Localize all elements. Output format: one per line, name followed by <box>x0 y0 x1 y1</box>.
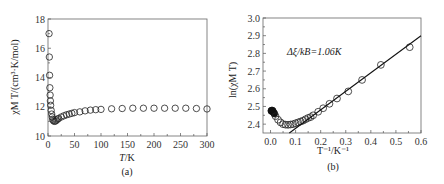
y-tick-label: 2.9 <box>248 30 261 41</box>
x-tick-label: 0.4 <box>365 136 378 147</box>
x-tick-label: 200 <box>147 139 162 150</box>
x-tick-label: 150 <box>120 139 135 150</box>
chart-panel-b: 2.42.52.62.72.82.93.0 0.00.10.20.30.40.5… <box>227 13 427 174</box>
y-tick-label: 3.0 <box>248 13 261 24</box>
data-point <box>406 44 413 51</box>
x-axis-label-a-unit: /K <box>125 152 136 163</box>
data-point <box>161 105 167 111</box>
panel-label-b: (b) <box>327 161 339 173</box>
x-tick-label: 0.6 <box>415 136 428 147</box>
data-point <box>193 105 199 111</box>
data-point <box>172 105 178 111</box>
y-tick-label: 14 <box>35 72 45 83</box>
x-axis-a: 050100150200250300 <box>46 133 215 150</box>
plot-frame-b <box>263 18 421 133</box>
data-point <box>119 105 125 111</box>
x-tick-label: 250 <box>173 139 188 150</box>
y-tick-label: 18 <box>35 14 45 25</box>
y-tick-label: 2.8 <box>248 48 261 59</box>
figure: 1012141618 050100150200250300 χM T/(cm³·… <box>0 0 444 184</box>
data-point <box>108 106 114 112</box>
x-axis-label-b: T⁻¹/K⁻¹ <box>317 145 349 156</box>
panel-label-a: (a) <box>121 166 132 178</box>
y-axis-label-b: ln(χM T) <box>227 62 239 98</box>
y-tick-label: 2.5 <box>248 101 261 112</box>
y-tick-label: 2.4 <box>248 119 261 130</box>
data-point <box>130 105 136 111</box>
x-tick-label: 0 <box>46 139 51 150</box>
data-series-a <box>46 30 210 124</box>
y-tick-label: 12 <box>35 101 45 112</box>
y-tick-label: 16 <box>35 43 45 54</box>
annotation-gap: Δξ/kB=1.06K <box>286 46 343 58</box>
x-tick-label: 100 <box>94 139 109 150</box>
x-tick-label: 0.1 <box>289 136 302 147</box>
y-axis-label-a: χM T/(cm³·K/mol) <box>9 39 21 115</box>
data-point <box>151 105 157 111</box>
data-point <box>46 54 52 60</box>
plot-frame-a <box>48 19 207 136</box>
x-tick-label: 0.0 <box>264 136 277 147</box>
y-tick-label: 2.7 <box>248 66 261 77</box>
data-point <box>140 105 146 111</box>
x-tick-label: 300 <box>200 139 215 150</box>
y-tick-label: 10 <box>35 131 45 142</box>
y-axis-a: 1012141618 <box>35 14 51 142</box>
y-tick-label: 2.6 <box>248 83 261 94</box>
x-tick-label: 50 <box>70 139 80 150</box>
data-point <box>183 105 189 111</box>
x-axis-label-a: T/K <box>119 152 135 163</box>
chart-panel-a: 1012141618 050100150200250300 χM T/(cm³·… <box>9 14 215 179</box>
x-tick-label: 0.5 <box>390 136 403 147</box>
